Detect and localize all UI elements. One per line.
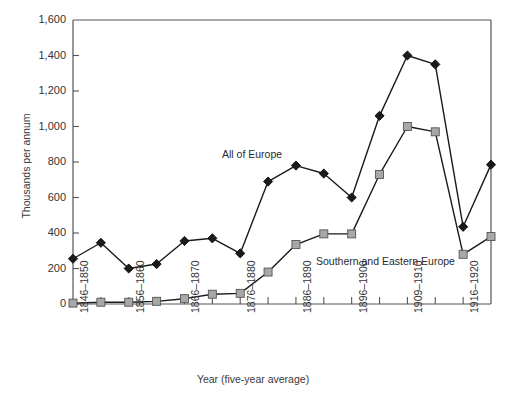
data-point-marker [236,249,245,258]
series-label-all-europe: All of Europe [222,148,282,160]
y-tick-label: 1,400 [20,50,66,61]
y-tick-label: 1,200 [20,85,66,96]
x-tick-label: 1856–1860 [134,260,146,313]
data-point-marker [125,298,133,306]
data-point-marker [320,230,328,238]
y-tick-label: 0 [20,298,66,309]
y-tick-label: 600 [20,192,66,203]
x-tick-label: 1846–1850 [78,260,90,313]
data-point-marker [180,295,188,303]
plot-area [0,0,506,401]
y-tick-label: 400 [20,227,66,238]
data-point-marker [264,268,272,276]
y-tick-label: 1,000 [20,121,66,132]
data-point-marker [459,222,468,231]
y-axis-tick-labels: 02004006008001,0001,2001,4001,600 [18,0,66,401]
y-tick-label: 1,600 [20,14,66,25]
x-tick-label: 1876–1880 [245,260,257,313]
immigration-line-chart: Thousands per annum 02004006008001,0001,… [0,0,506,401]
data-point-marker [208,234,217,243]
data-point-marker [348,230,356,238]
data-point-marker [236,289,244,297]
data-point-marker [153,297,161,305]
x-tick-label: 1896–1900 [357,260,369,313]
series-line-all-europe [73,56,491,269]
x-axis-title: Year (five-year average) [0,373,506,385]
data-point-marker [263,177,272,186]
data-point-marker [403,123,411,131]
x-tick-label: 1916–1920 [468,260,480,313]
x-tick-label: 1909–1910 [412,260,424,313]
x-tick-label: 1886–1890 [301,260,313,313]
data-point-marker [375,111,384,120]
data-point-marker [487,233,495,241]
data-point-marker [376,170,384,178]
data-point-marker [208,290,216,298]
x-tick-label: 1866–1870 [189,260,201,313]
data-point-marker [431,128,439,136]
data-point-marker [97,298,105,306]
data-point-marker [291,161,300,170]
data-point-marker [486,160,495,169]
data-point-marker [431,60,440,69]
data-point-marker [68,254,77,263]
data-point-marker [403,51,412,60]
data-point-marker [69,299,77,307]
data-point-marker [459,250,467,258]
y-tick-label: 800 [20,156,66,167]
data-point-marker [292,241,300,249]
y-tick-label: 200 [20,263,66,274]
series-label-southern-eastern-europe: Southern and Eastern Europe [316,255,455,267]
